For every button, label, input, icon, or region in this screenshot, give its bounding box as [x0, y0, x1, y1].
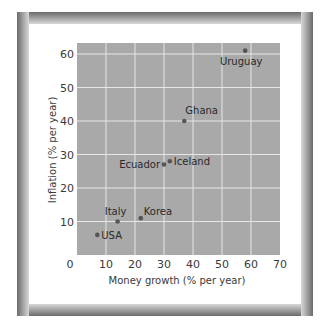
point-marker: [95, 233, 100, 238]
point-marker: [168, 159, 173, 164]
y-tick-label: 10: [60, 216, 74, 229]
point-marker: [139, 216, 144, 221]
point-label: Uruguay: [220, 56, 263, 67]
x-tick-label: 70: [273, 258, 287, 271]
point-marker: [115, 219, 120, 224]
point-label: USA: [101, 230, 122, 241]
point-label: Ecuador: [119, 159, 161, 170]
point-marker: [162, 162, 167, 167]
x-tick-label: 10: [99, 258, 113, 271]
x-tick-label: 40: [186, 258, 200, 271]
y-tick-label: 20: [60, 182, 74, 195]
x-axis-label: Money growth (% per year): [109, 275, 246, 286]
point-marker: [182, 119, 187, 124]
x-tick-label: 0: [67, 258, 74, 271]
point-label: Iceland: [174, 156, 210, 167]
y-tick-label: 30: [60, 149, 74, 162]
point-marker: [243, 48, 248, 53]
x-tick-label: 60: [244, 258, 258, 271]
data-point-iceland: Iceland: [168, 156, 211, 167]
data-point-ecuador: Ecuador: [119, 159, 166, 170]
y-tick-label: 40: [60, 115, 74, 128]
scatter-chart: 010203040506070 102030405060 USAItalyKor…: [0, 0, 328, 331]
point-label: Korea: [144, 206, 172, 217]
y-axis-ticks: 102030405060: [60, 48, 74, 229]
x-tick-label: 50: [215, 258, 229, 271]
x-tick-label: 20: [128, 258, 142, 271]
x-tick-label: 30: [157, 258, 171, 271]
y-axis-label: Inflation (% per year): [47, 97, 58, 204]
point-label: Ghana: [185, 105, 218, 116]
y-tick-label: 60: [60, 48, 74, 61]
point-label: Italy: [105, 206, 127, 217]
x-axis-ticks: 010203040506070: [67, 258, 288, 271]
plot-area: [77, 43, 280, 255]
y-tick-label: 50: [60, 82, 74, 95]
